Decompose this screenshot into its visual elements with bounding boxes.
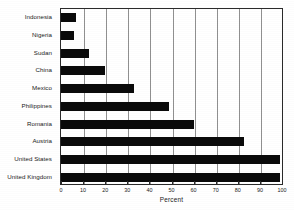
x-axis-tick-mark xyxy=(105,181,106,185)
bar xyxy=(61,49,89,58)
x-axis-title: Percent xyxy=(60,196,283,204)
x-axis-tick-label: 30 xyxy=(124,187,130,193)
x-axis-tick-label: 50 xyxy=(169,187,175,193)
x-axis-tick-label: 20 xyxy=(102,187,108,193)
bar-chart: IndonesiaNigeriaSudanChinaMexicoPhilippi… xyxy=(0,0,294,210)
y-axis-tick-label: Philippines xyxy=(0,102,52,109)
x-axis-tick-mark xyxy=(282,181,283,185)
plot-area xyxy=(60,8,283,185)
x-axis-tick-mark xyxy=(194,181,195,185)
x-axis-tick-mark xyxy=(238,181,239,185)
x-axis-tick-mark xyxy=(260,181,261,185)
x-axis-tick-label: 60 xyxy=(191,187,197,193)
x-axis-tick-label: 100 xyxy=(278,187,287,193)
y-axis-tick-label: Mexico xyxy=(0,84,52,91)
x-axis-tick-label: 0 xyxy=(60,187,63,193)
y-axis-tick-label: Austria xyxy=(0,137,52,144)
x-axis-tick-label: 70 xyxy=(213,187,219,193)
x-axis-tick-mark xyxy=(127,181,128,185)
bar xyxy=(61,84,134,93)
x-axis-tick-mark xyxy=(216,181,217,185)
y-axis-tick-label: Nigeria xyxy=(0,31,52,38)
x-axis-tick-mark xyxy=(172,181,173,185)
y-axis-tick-label: China xyxy=(0,66,52,73)
x-axis-tick-mark xyxy=(83,181,84,185)
y-axis-tick-label: United States xyxy=(0,155,52,162)
bar xyxy=(61,173,280,182)
x-axis: 0102030405060708090100 xyxy=(60,185,283,186)
x-axis-tick-label: 80 xyxy=(235,187,241,193)
bar xyxy=(61,102,169,111)
x-axis-tick-label: 90 xyxy=(257,187,263,193)
bar xyxy=(61,66,105,75)
y-axis-tick-label: United Kingdom xyxy=(0,173,52,180)
x-axis-tick-label: 10 xyxy=(80,187,86,193)
x-axis-tick-mark xyxy=(149,181,150,185)
y-axis-tick-label: Romania xyxy=(0,120,52,127)
y-axis-tick-label: Indonesia xyxy=(0,13,52,20)
y-axis-tick-label: Sudan xyxy=(0,49,52,56)
bar xyxy=(61,155,280,164)
bar xyxy=(61,120,194,129)
bar xyxy=(61,31,74,40)
bar xyxy=(61,137,244,146)
y-axis-category-labels: IndonesiaNigeriaSudanChinaMexicoPhilippi… xyxy=(0,8,56,185)
bar xyxy=(61,13,76,22)
x-axis-tick-mark xyxy=(61,181,62,185)
x-axis-tick-label: 40 xyxy=(146,187,152,193)
